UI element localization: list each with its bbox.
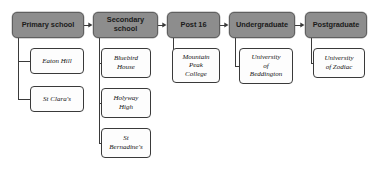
arrow-head-icon-secondary-school (88, 23, 92, 28)
stage-node-secondary-school[interactable]: Secondary school (93, 12, 158, 38)
leaf-node-university-of-zodiac[interactable]: University of Zodiac (313, 48, 365, 78)
leaf-node-mountain-peak-college[interactable]: Mountain Peak College (172, 48, 220, 83)
arrow-head-icon-post-16 (162, 23, 166, 28)
stage-node-primary-school-label: Primary school (20, 21, 77, 30)
arrow-head-icon-postgraduate (300, 23, 304, 28)
stage-node-post-16-label: Post 16 (179, 21, 209, 30)
stage-node-post-16[interactable]: Post 16 (167, 12, 220, 38)
leaf-node-university-of-zodiac-label: University of Zodiac (322, 54, 355, 71)
leaf-node-holyway-high-label: Holyway High (112, 94, 141, 111)
stage-node-primary-school[interactable]: Primary school (12, 12, 84, 38)
leaf-node-eaton-hill-label: Eaton Hill (40, 57, 73, 66)
leaf-node-university-of-beddington-label: University of Beddington (248, 53, 284, 79)
leaf-node-university-of-beddington[interactable]: University of Beddington (239, 48, 293, 84)
stage-node-secondary-school-label: Secondary school (105, 16, 146, 33)
leaf-node-st-bernadines[interactable]: St Bernadine's (101, 128, 151, 158)
leaf-node-mountain-peak-college-label: Mountain Peak College (180, 53, 211, 79)
stage-node-postgraduate[interactable]: Postgraduate (305, 12, 367, 38)
leaf-node-st-claras[interactable]: St Clara's (30, 86, 84, 112)
leaf-node-bluebird-house[interactable]: Bluebird House (101, 48, 151, 78)
stage-node-undergraduate[interactable]: Undergraduate (229, 12, 295, 38)
flowchart-stage: Primary schoolEaton HillSt Clara'sSecond… (0, 0, 382, 169)
leaf-node-holyway-high[interactable]: Holyway High (101, 88, 151, 118)
flowchart-canvas: Primary schoolEaton HillSt Clara'sSecond… (0, 0, 382, 169)
stage-node-postgraduate-label: Postgraduate (311, 21, 362, 30)
stage-node-undergraduate-label: Undergraduate (234, 21, 290, 30)
arrow-head-icon-undergraduate (224, 23, 228, 28)
leaf-node-bluebird-house-label: Bluebird House (112, 54, 140, 71)
leaf-node-eaton-hill[interactable]: Eaton Hill (30, 48, 84, 74)
leaf-node-st-bernadines-label: St Bernadine's (107, 134, 144, 151)
leaf-node-st-claras-label: St Clara's (41, 95, 73, 104)
